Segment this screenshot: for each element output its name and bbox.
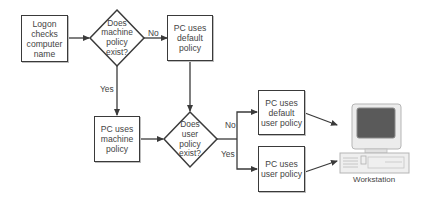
process-box-logon: Logon checks computer name <box>21 15 68 62</box>
default-policy-text: PC uses default policy <box>169 23 211 53</box>
process-box-user-policy: PC uses user policy <box>258 146 305 192</box>
no-label-machine: No <box>148 28 159 38</box>
machine-question-label: Does machine policy exist? <box>97 19 137 57</box>
yes-label-user: Yes <box>221 149 235 159</box>
process-box-default-user-policy: PC uses default user policy <box>258 90 305 135</box>
machine-policy-text: PC uses machine policy <box>96 124 138 154</box>
user-policy-text: PC uses user policy <box>260 159 303 179</box>
decision-text-machine-policy: Does machine policy exist? <box>97 15 137 61</box>
logon-text: Logon checks computer name <box>23 19 66 59</box>
decision-text-user-policy: Does user policy exist? <box>172 117 208 162</box>
arrow-default-user-policy-to-workstation <box>305 113 337 125</box>
workstation-computer-icon <box>340 104 409 173</box>
arrow-user-policy-to-workstation <box>305 161 337 172</box>
yes-label-machine: Yes <box>100 84 114 94</box>
default-user-policy-text: PC uses default user policy <box>260 98 303 128</box>
user-question-label: Does user policy exist? <box>172 120 208 158</box>
process-box-machine-policy: PC uses machine policy <box>94 116 140 162</box>
arrow-no-to-default-user-policy <box>237 112 257 139</box>
workstation-label: Workstation <box>353 175 395 184</box>
no-label-user: No <box>225 120 236 130</box>
process-box-default-policy: PC uses default policy <box>167 15 213 61</box>
arrow-yes-to-user-policy <box>237 139 257 169</box>
